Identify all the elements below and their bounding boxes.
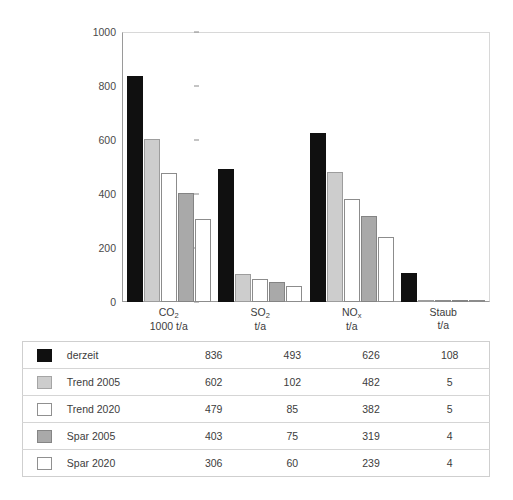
bar: [469, 300, 485, 302]
bar: [269, 282, 285, 302]
bar: [327, 172, 343, 302]
value-cell: 836: [174, 342, 253, 369]
series-name-cell: Spar 2005: [67, 423, 175, 450]
table-row: derzeit836493626108: [23, 342, 490, 369]
bar-group: [401, 32, 485, 302]
value-cell: 5: [410, 396, 489, 423]
bar: [144, 139, 160, 302]
bar: [452, 300, 468, 302]
table-row: Spar 2005403753194: [23, 423, 490, 450]
bar: [127, 76, 143, 302]
value-cell: 108: [410, 342, 489, 369]
x-axis-label-subscript: 2: [266, 311, 270, 320]
x-axis-label-name: SO: [251, 306, 266, 318]
bar: [235, 274, 251, 302]
legend-data-table: derzeit836493626108Trend 20056021024825T…: [22, 341, 490, 477]
table-row: Spar 2020306602394: [23, 450, 490, 477]
bar: [435, 300, 451, 302]
y-axis: 02004006008001000: [76, 0, 116, 340]
value-cell: 4: [410, 423, 489, 450]
value-cell: 102: [253, 369, 332, 396]
bar: [401, 273, 417, 302]
bar-group: [127, 32, 211, 302]
x-axis-label: Staubt/a: [388, 306, 498, 332]
bar: [344, 199, 360, 302]
legend-swatch-icon: [37, 403, 52, 416]
y-tick-label: 200: [80, 243, 116, 254]
series-name-cell: Trend 2005: [67, 369, 175, 396]
value-cell: 5: [410, 369, 489, 396]
legend-swatch-cell: [23, 396, 67, 423]
value-cell: 319: [332, 423, 411, 450]
bar: [195, 219, 211, 302]
value-cell: 479: [174, 396, 253, 423]
x-axis-label-name: CO: [159, 306, 175, 318]
value-cell: 403: [174, 423, 253, 450]
table-row: Trend 2020479853825: [23, 396, 490, 423]
value-cell: 493: [253, 342, 332, 369]
x-axis-label-subscript: x: [358, 311, 362, 320]
value-cell: 602: [174, 369, 253, 396]
y-tick-label: 1000: [80, 27, 116, 38]
x-axis-label-subscript: 2: [175, 311, 179, 320]
value-cell: 239: [332, 450, 411, 477]
bar: [252, 279, 268, 302]
bars-layer: [123, 32, 489, 302]
value-cell: 382: [332, 396, 411, 423]
series-name-cell: derzeit: [67, 342, 175, 369]
bar: [310, 133, 326, 302]
bar-chart: 02004006008001000 CO21000 t/aSO2t/aNOxt/…: [0, 0, 513, 340]
bar: [178, 193, 194, 302]
bar: [218, 169, 234, 302]
legend-swatch-cell: [23, 423, 67, 450]
bar: [378, 237, 394, 302]
legend-swatch-icon: [37, 349, 52, 362]
bar: [361, 216, 377, 302]
bar: [286, 286, 302, 302]
y-tick-label: 600: [80, 135, 116, 146]
legend-swatch-icon: [37, 376, 52, 389]
bar-group: [218, 32, 302, 302]
value-cell: 482: [332, 369, 411, 396]
value-cell: 60: [253, 450, 332, 477]
series-name-cell: Trend 2020: [67, 396, 175, 423]
legend-swatch-cell: [23, 342, 67, 369]
value-cell: 75: [253, 423, 332, 450]
legend-swatch-cell: [23, 369, 67, 396]
y-tick-label: 0: [80, 297, 116, 308]
table-row: Trend 20056021024825: [23, 369, 490, 396]
x-axis-label-unit: t/a: [388, 319, 498, 332]
legend-swatch-icon: [37, 457, 52, 470]
value-cell: 626: [332, 342, 411, 369]
value-cell: 4: [410, 450, 489, 477]
x-axis-label-name: NO: [342, 306, 358, 318]
bar-group: [310, 32, 394, 302]
legend-swatch-icon: [37, 430, 52, 443]
bar: [161, 173, 177, 302]
bar: [418, 300, 434, 302]
legend-swatch-cell: [23, 450, 67, 477]
y-tick-label: 800: [80, 81, 116, 92]
y-tick-label: 400: [80, 189, 116, 200]
series-name-cell: Spar 2020: [67, 450, 175, 477]
value-cell: 85: [253, 396, 332, 423]
x-axis-label-name: Staub: [430, 306, 457, 318]
value-cell: 306: [174, 450, 253, 477]
